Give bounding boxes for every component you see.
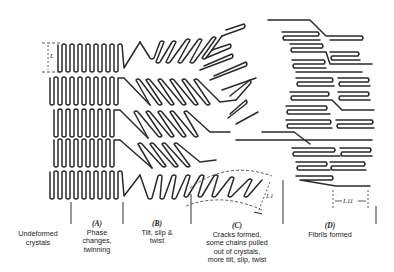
stage-d-line-1: Fibrils formed — [308, 230, 352, 239]
dimension-l-label: L — [50, 52, 54, 60]
dimension-l11-label: L11 — [343, 197, 353, 205]
stage-label-c: (C) Cracks formed, some chains pulled ou… — [192, 222, 282, 265]
stage-undeformed-line-2: crystals — [26, 238, 50, 247]
stage-label-b: (B) Tilt, slip & twist — [124, 220, 190, 246]
stage-c-line-4: more tilt, slip, twist — [208, 255, 267, 264]
fibrils — [236, 20, 374, 186]
undeformed-lamellae — [50, 42, 152, 199]
stage-label-undeformed: Undeformed crystals — [8, 230, 68, 247]
dimension-l1-label: L1 — [266, 192, 273, 200]
stage-label-a: (A) Phase changes, twinning — [72, 220, 122, 254]
stage-b-line-2: twist — [150, 236, 164, 245]
tilted-lamellae — [134, 24, 262, 199]
stage-a-line-3: twinning — [84, 245, 110, 254]
stage-label-d: (D) Fibrils formed — [284, 222, 376, 239]
